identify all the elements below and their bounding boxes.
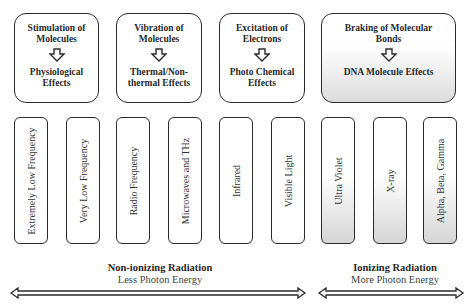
spectrum-label: Extremely Low Frequency [26, 127, 37, 234]
spectrum-bar-uv: Ultra Violet [321, 117, 355, 244]
down-arrow-icon [381, 48, 397, 62]
effect-cause: Stimulation of Molecules [15, 23, 98, 45]
spectrum-bar-infrared: Infrared [219, 117, 253, 244]
down-arrow-icon [49, 48, 65, 62]
spectrum-bar-xray: X-ray [373, 117, 407, 244]
effect-cause: Excitation of Electrons [220, 23, 304, 45]
spectrum-label: X-ray [385, 169, 396, 192]
effect-result: Thermal/Non-thermal Effects [117, 67, 201, 89]
spectrum-bar-vlf: Very Low Frequency [66, 117, 100, 244]
non-ionizing-title: Non-ionizing Radiation [60, 262, 260, 274]
ionizing-subtitle: More Photon Energy [330, 274, 460, 286]
effect-result: Photo Chemical Effects [220, 67, 304, 89]
down-arrow-icon [254, 48, 270, 62]
effect-box-bond-breaking: Braking of Molecular Bonds DNA Molecule … [321, 13, 456, 103]
spectrum-label: Radio Frequency [128, 146, 139, 215]
effect-result: Physiological Effects [15, 67, 98, 89]
spectrum-label: Alpha, Beta, Gamma [435, 138, 446, 222]
spectrum-label: Microwaves and THz [180, 137, 191, 223]
spectrum-label: Very Low Frequency [78, 138, 89, 222]
effect-box-vibration: Vibration of Molecules Thermal/Non-therm… [116, 13, 202, 103]
non-ionizing-label: Non-ionizing Radiation Less Photon Energ… [60, 262, 260, 286]
spectrum-label: Infrared [231, 164, 242, 196]
non-ionizing-subtitle: Less Photon Energy [60, 274, 260, 286]
effect-result: DNA Molecule Effects [341, 67, 437, 78]
effect-cause: Braking of Molecular Bonds [322, 23, 455, 45]
spectrum-bar-rf: Radio Frequency [116, 117, 150, 244]
spectrum-bar-elf: Extremely Low Frequency [14, 117, 48, 244]
spectrum-label: Ultra Violet [333, 157, 344, 204]
spectrum-bar-alpha-beta-gamma: Alpha, Beta, Gamma [423, 117, 457, 244]
effect-box-excitation: Excitation of Electrons Photo Chemical E… [219, 13, 305, 103]
double-arrow-ionizing-icon [318, 287, 464, 299]
ionizing-title: Ionizing Radiation [330, 262, 460, 274]
effect-cause: Vibration of Molecules [117, 23, 201, 45]
spectrum-bar-microwaves: Microwaves and THz [168, 117, 202, 244]
spectrum-bar-visible: Visible Light [271, 117, 305, 244]
double-arrow-non-ionizing-icon [10, 287, 306, 299]
spectrum-label: Visible Light [283, 154, 294, 206]
effect-box-stimulation: Stimulation of Molecules Physiological E… [14, 13, 99, 103]
ionizing-label: Ionizing Radiation More Photon Energy [330, 262, 460, 286]
down-arrow-icon [151, 48, 167, 62]
